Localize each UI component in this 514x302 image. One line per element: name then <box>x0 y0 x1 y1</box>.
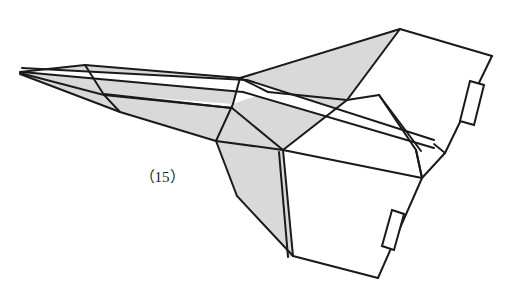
paper-airplane-drawing <box>0 0 514 302</box>
edge-upper-wing-root <box>347 95 379 100</box>
figure-container: （15） <box>0 0 514 302</box>
figure-caption: （15） <box>132 166 192 188</box>
